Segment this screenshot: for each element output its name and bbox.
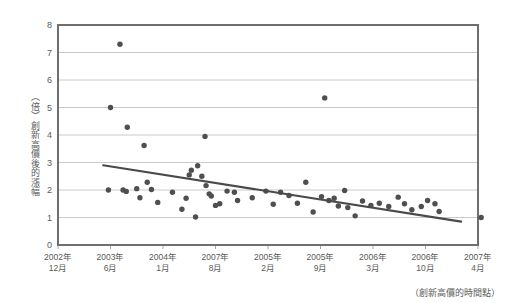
data-point — [189, 168, 194, 173]
y-tick-label: 8 — [36, 20, 52, 30]
data-point — [125, 125, 130, 130]
trend-line — [103, 165, 461, 221]
data-point — [106, 187, 111, 192]
data-point — [352, 213, 357, 218]
data-point — [396, 194, 401, 199]
data-point — [179, 207, 184, 212]
y-tick-label: 7 — [36, 48, 52, 58]
data-points — [106, 42, 484, 221]
data-point — [331, 196, 336, 201]
data-point — [187, 172, 192, 177]
data-point — [250, 195, 255, 200]
y-tick-label: 6 — [36, 75, 52, 85]
data-point — [155, 200, 160, 205]
data-point — [271, 202, 276, 207]
data-point — [145, 180, 150, 185]
data-point — [193, 214, 198, 219]
x-tick-label: 2007年 8月 — [190, 252, 242, 274]
data-point — [360, 198, 365, 203]
data-point — [235, 198, 240, 203]
y-tick-label: 3 — [36, 158, 52, 168]
x-tick-label: 2006年 10月 — [400, 252, 452, 274]
data-point — [183, 196, 188, 201]
data-point — [117, 42, 122, 47]
y-tick-label: 4 — [36, 130, 52, 140]
data-point — [203, 183, 208, 188]
x-tick-label: 2002年 12月 — [32, 252, 84, 274]
y-tick-label: 5 — [36, 103, 52, 113]
data-point — [436, 209, 441, 214]
data-point — [209, 193, 214, 198]
data-point — [170, 190, 175, 195]
data-point — [377, 201, 382, 206]
x-tick-label: 2005年 9月 — [295, 252, 347, 274]
data-point — [336, 203, 341, 208]
y-tick-label: 1 — [36, 213, 52, 223]
y-tick-label: 2 — [36, 185, 52, 195]
data-point — [409, 207, 414, 212]
data-point — [232, 190, 237, 195]
data-point — [217, 201, 222, 206]
x-tick-label: 2007年 4月 — [452, 252, 504, 274]
data-point — [224, 188, 229, 193]
x-tick-label: 2003年 6月 — [85, 252, 137, 274]
data-point — [478, 215, 483, 220]
data-point — [322, 95, 327, 100]
data-point — [202, 134, 207, 139]
data-point — [199, 174, 204, 179]
x-tick-label: 2005年 2月 — [242, 252, 294, 274]
data-point — [310, 209, 315, 214]
data-point — [108, 105, 113, 110]
data-point — [425, 198, 430, 203]
data-point — [295, 201, 300, 206]
data-point — [432, 201, 437, 206]
x-tick-label: 2004年 1月 — [137, 252, 189, 274]
y-tick-label: 0 — [36, 240, 52, 250]
data-point — [345, 205, 350, 210]
x-axis-label: （創新高價的時間點） — [410, 286, 500, 299]
data-point — [419, 204, 424, 209]
data-point — [303, 180, 308, 185]
data-point — [386, 204, 391, 209]
x-tick-label: 2006年 3月 — [347, 252, 399, 274]
data-point — [342, 188, 347, 193]
data-point — [195, 163, 200, 168]
data-point — [137, 195, 142, 200]
scatter-chart: （倍）創新高價後的漲幅 012345678 2002年 12月2003年 6月2… — [0, 0, 512, 303]
data-point — [141, 143, 146, 148]
data-point — [134, 186, 139, 191]
data-point — [402, 201, 407, 206]
data-point — [149, 187, 154, 192]
data-point — [124, 189, 129, 194]
